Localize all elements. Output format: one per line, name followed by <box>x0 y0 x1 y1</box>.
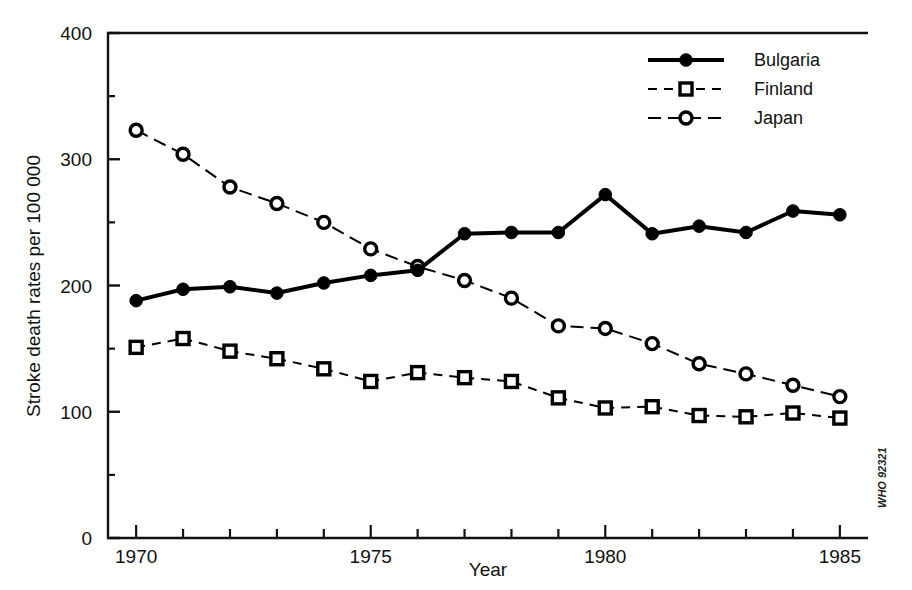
legend-label: Finland <box>754 79 813 99</box>
y-tick-label: 300 <box>60 149 92 170</box>
data-point-marker <box>130 294 143 307</box>
data-point-marker <box>271 353 283 365</box>
data-point-marker <box>834 209 847 222</box>
data-point-marker <box>318 363 330 375</box>
y-tick-label: 200 <box>60 276 92 297</box>
data-point-marker <box>740 368 752 380</box>
x-tick-label: 1985 <box>819 546 861 567</box>
data-point-marker <box>834 391 846 403</box>
data-point-marker <box>459 274 471 286</box>
data-point-marker <box>364 269 377 282</box>
data-point-marker <box>505 292 517 304</box>
data-point-marker <box>224 280 237 293</box>
data-point-marker <box>693 220 706 233</box>
y-tick-label: 0 <box>81 528 92 549</box>
data-point-marker <box>459 372 471 384</box>
data-point-marker <box>318 216 330 228</box>
y-axis-title: Stroke death rates per 100 000 <box>23 155 44 417</box>
x-tick-label: 1975 <box>350 546 392 567</box>
data-point-marker <box>740 226 753 239</box>
data-point-marker <box>787 407 799 419</box>
y-tick-label: 400 <box>60 23 92 44</box>
data-point-marker <box>224 345 236 357</box>
chart-figure: 0100200300400 1970197519801985 Stroke de… <box>0 0 912 590</box>
data-point-marker <box>599 402 611 414</box>
data-point-marker <box>177 148 189 160</box>
data-point-marker <box>787 379 799 391</box>
data-point-marker <box>458 227 471 240</box>
data-point-marker <box>271 287 284 300</box>
data-point-marker <box>552 226 565 239</box>
legend-label: Japan <box>754 108 803 128</box>
data-point-marker <box>505 375 517 387</box>
data-point-marker <box>693 410 705 422</box>
data-point-marker <box>740 411 752 423</box>
data-point-marker <box>680 54 693 67</box>
data-point-marker <box>552 392 564 404</box>
data-point-marker <box>693 358 705 370</box>
data-point-marker <box>505 226 518 239</box>
y-tick-label: 100 <box>60 402 92 423</box>
data-point-marker <box>834 412 846 424</box>
data-point-marker <box>787 205 800 218</box>
data-point-marker <box>599 322 611 334</box>
data-point-marker <box>646 338 658 350</box>
who-reference-code: WHO 92321 <box>876 447 888 508</box>
x-tick-label: 1980 <box>584 546 626 567</box>
stroke-death-rates-line-chart: 0100200300400 1970197519801985 Stroke de… <box>0 0 912 590</box>
data-point-marker <box>646 401 658 413</box>
data-point-marker <box>552 320 564 332</box>
data-point-marker <box>365 243 377 255</box>
data-point-marker <box>318 277 331 290</box>
data-point-marker <box>365 375 377 387</box>
data-point-marker <box>599 188 612 201</box>
data-point-marker <box>412 367 424 379</box>
data-point-marker <box>130 124 142 136</box>
data-point-marker <box>224 181 236 193</box>
x-axis-title: Year <box>469 559 508 580</box>
data-point-marker <box>646 227 659 240</box>
data-point-marker <box>680 112 692 124</box>
data-point-marker <box>177 333 189 345</box>
data-point-marker <box>680 83 692 95</box>
legend-label: Bulgaria <box>754 50 821 70</box>
data-point-marker <box>411 264 424 277</box>
x-tick-label: 1970 <box>115 546 157 567</box>
data-point-marker <box>177 283 190 296</box>
data-point-marker <box>271 197 283 209</box>
data-point-marker <box>130 341 142 353</box>
